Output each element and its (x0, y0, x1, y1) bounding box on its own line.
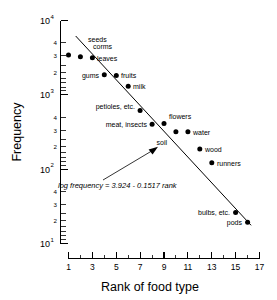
frequency-vs-rank-chart: 10 4 10 3 10 2 10 1 4 3 2 4 3 2 4 3 (0, 0, 277, 300)
x-tick-label: 11 (183, 262, 192, 272)
y-decade-mantissa: 10 (40, 165, 50, 175)
x-tick-label: 17 (255, 262, 265, 272)
y-minor-label: 3 (54, 127, 58, 134)
y-decade-exponent: 4 (51, 14, 55, 20)
y-decade-label-1e1: 10 1 (40, 237, 55, 250)
point-label-water: water (192, 129, 211, 136)
y-decade-label-1e4: 10 4 (40, 14, 55, 27)
x-tick-label: 13 (207, 262, 217, 272)
leader-line (103, 149, 155, 180)
point-label-corms: corms (93, 43, 113, 50)
regression-fit-line (76, 36, 251, 225)
y-minor-label: 2 (54, 143, 58, 150)
point-labels: seeds corms leaves gums fruits milk peti… (82, 36, 243, 228)
regression-equation-annotation: log frequency = 3.924 - 0.1517 rank (58, 181, 178, 190)
data-point (90, 55, 95, 60)
y-minor-label: 2 (54, 217, 58, 224)
point-label-gums: gums (82, 72, 100, 80)
x-tick-label: 3 (90, 262, 95, 272)
data-point (78, 54, 83, 59)
data-point (209, 160, 214, 165)
y-axis: 10 4 10 3 10 2 10 1 4 3 2 4 3 2 4 3 (10, 14, 68, 250)
y-minor-label: 4 (54, 39, 58, 46)
chart-canvas: 10 4 10 3 10 2 10 1 4 3 2 4 3 2 4 3 (0, 0, 277, 300)
point-label-seeds: seeds (88, 36, 107, 43)
point-label-pods: pods (227, 219, 243, 227)
y-decade-exponent: 1 (51, 237, 55, 243)
x-axis: 1 3 5 7 9 11 13 15 17 Rank of food type (66, 252, 264, 295)
y-decade-label-1e2: 10 2 (40, 162, 55, 175)
y-decade-exponent: 2 (51, 162, 55, 168)
y-decade-mantissa: 10 (40, 90, 50, 100)
y-decade-label-1e3: 10 3 (40, 88, 55, 101)
data-point (233, 210, 238, 215)
point-label-bulbs: bulbs, etc. (198, 209, 230, 216)
equation-leader (103, 147, 158, 180)
x-tick-label: 9 (162, 262, 167, 272)
y-decade-mantissa: 10 (40, 239, 50, 249)
x-tick-label: 7 (138, 262, 143, 272)
y-minor-label: 3 (54, 201, 58, 208)
data-point (138, 108, 143, 113)
y-minor-label: 4 (54, 188, 58, 195)
x-axis-title: Rank of food type (101, 280, 199, 294)
y-decade-mantissa: 10 (40, 16, 50, 26)
y-minor-label: 4 (54, 114, 58, 121)
data-point (173, 129, 178, 134)
data-point (114, 73, 119, 78)
y-minor-label: 3 (54, 52, 58, 59)
data-point (66, 52, 71, 57)
point-label-wood: wood (204, 146, 222, 153)
data-point (162, 121, 167, 126)
point-label-meat-insects: meat, insects (106, 121, 148, 128)
data-point (150, 122, 155, 127)
arrow-head-icon (149, 147, 158, 155)
point-label-milk: milk (133, 83, 146, 90)
point-label-soil: soil (156, 139, 167, 146)
point-label-fruits: fruits (121, 72, 137, 79)
data-point (126, 84, 131, 89)
point-label-petioles: petioles, etc. (96, 103, 135, 111)
x-tick-label: 15 (231, 262, 241, 272)
point-label-runners: runners (217, 160, 241, 167)
data-point (197, 147, 202, 152)
x-tick-label: 1 (66, 262, 71, 272)
data-point (245, 220, 250, 225)
point-label-leaves: leaves (97, 55, 118, 62)
y-axis-title: Frequency (10, 102, 24, 162)
data-point (102, 72, 107, 77)
point-label-flowers: flowers (169, 113, 192, 120)
y-decade-exponent: 3 (51, 88, 55, 94)
y-minor-label: 2 (54, 69, 58, 76)
data-point (185, 129, 190, 134)
x-tick-label: 5 (114, 262, 119, 272)
